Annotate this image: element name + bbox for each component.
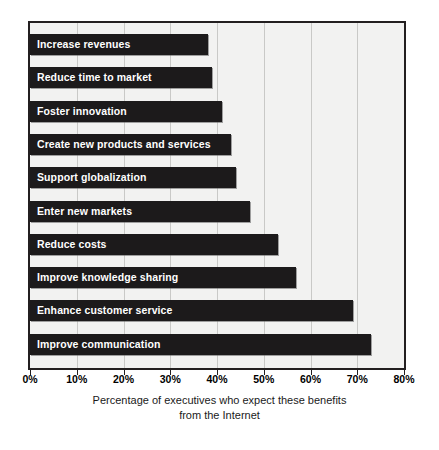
bar-category-label: Support globalization	[37, 167, 146, 188]
tick-label-20: 20%	[113, 373, 134, 385]
bar-category-label: Increase revenues	[37, 34, 130, 55]
tick-label-0: 0%	[22, 373, 37, 385]
bar-chart-figure: Increase revenuesReduce time to marketFo…	[0, 0, 439, 450]
x-axis-caption: Percentage of executives who expect thes…	[0, 393, 439, 423]
bar-category-label: Improve knowledge sharing	[37, 267, 178, 288]
tick-label-10: 10%	[66, 373, 87, 385]
bar-category-label: Foster innovation	[37, 101, 127, 122]
bar-category-label: Improve communication	[37, 334, 160, 355]
bar-category-label: Reduce costs	[37, 234, 106, 255]
tick-label-80: 80%	[393, 373, 414, 385]
bars-layer: Increase revenuesReduce time to marketFo…	[30, 23, 404, 368]
bar-category-label: Create new products and services	[37, 134, 211, 155]
plot-area: Increase revenuesReduce time to marketFo…	[28, 21, 406, 370]
bar-category-label: Reduce time to market	[37, 67, 152, 88]
tick-label-70: 70%	[347, 373, 368, 385]
tick-label-50: 50%	[253, 373, 274, 385]
tick-label-40: 40%	[206, 373, 227, 385]
tick-label-30: 30%	[160, 373, 181, 385]
bar-category-label: Enter new markets	[37, 201, 132, 222]
tick-label-60: 60%	[300, 373, 321, 385]
caption-line-1: Percentage of executives who expect thes…	[0, 393, 439, 408]
x-axis-tick-labels: 0%10%20%30%40%50%60%70%80%	[0, 373, 439, 389]
caption-line-2: from the Internet	[0, 408, 439, 423]
bar-category-label: Enhance customer service	[37, 300, 172, 321]
